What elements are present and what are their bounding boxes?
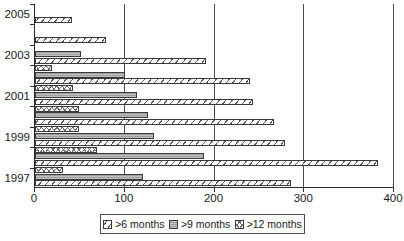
bar-2003-6months <box>35 58 206 64</box>
y-tick-2000 <box>30 106 34 107</box>
bar-1997-6months <box>35 180 291 186</box>
y-tick-1997 <box>30 168 34 169</box>
bar-1997-9months <box>35 174 143 180</box>
bar-2003-9months <box>35 51 81 57</box>
bar-1999-9months <box>35 133 154 139</box>
legend-label: >12 months <box>247 219 302 230</box>
legend-item-0: >6 months <box>103 219 164 230</box>
legend-item-1: >9 months <box>169 219 230 230</box>
bar-2000-12months <box>35 106 79 112</box>
y-tick-2004 <box>30 24 34 25</box>
bar-2004-6months <box>35 37 106 43</box>
y-axis-label-1999: 1999 <box>4 131 30 143</box>
y-tick-2001 <box>30 86 34 87</box>
bar-2002-9months <box>35 72 125 78</box>
hatch-swatch-icon <box>103 220 112 229</box>
x-axis-label-200: 200 <box>194 192 234 204</box>
y-axis-label-2003: 2003 <box>4 49 30 61</box>
y-axis-label-2005: 2005 <box>4 8 30 20</box>
legend-item-2: >12 months <box>235 219 302 230</box>
x-axis-label-300: 300 <box>283 192 323 204</box>
crosshatch-swatch-icon <box>235 220 244 229</box>
bar-2001-12months <box>35 85 73 91</box>
bar-2002-6months <box>35 78 250 84</box>
horizontal-bar-chart: 19971999200120032005 0100200300400 >6 mo… <box>0 0 404 241</box>
x-axis-label-400: 400 <box>373 192 404 204</box>
chart-legend: >6 months>9 months>12 months <box>100 214 305 234</box>
bar-1999-12months <box>35 126 79 132</box>
bar-2000-9months <box>35 112 148 118</box>
y-tick-2003 <box>30 45 34 46</box>
bar-1998-6months <box>35 160 378 166</box>
x-axis-label-0: 0 <box>14 192 54 204</box>
gridline-400 <box>393 4 394 188</box>
y-tick-1998 <box>30 147 34 148</box>
bar-2000-6months <box>35 119 274 125</box>
gray-swatch-icon <box>169 220 178 229</box>
bar-2005-6months <box>35 17 72 23</box>
y-tick-1999 <box>30 127 34 128</box>
bar-2001-9months <box>35 92 137 98</box>
y-axis-label-2001: 2001 <box>4 90 30 102</box>
bar-2001-6months <box>35 99 253 105</box>
y-tick-2002 <box>30 65 34 66</box>
bar-2002-12months <box>35 65 52 71</box>
plot-area <box>34 4 393 188</box>
bar-1999-6months <box>35 140 285 146</box>
bar-1998-12months <box>35 147 97 153</box>
legend-label: >9 months <box>181 219 230 230</box>
bar-1998-9months <box>35 153 204 159</box>
bar-1997-12months <box>35 167 63 173</box>
y-tick-2005 <box>30 4 34 5</box>
legend-label: >6 months <box>115 219 164 230</box>
x-axis-label-100: 100 <box>104 192 144 204</box>
y-axis-label-1997: 1997 <box>4 172 30 184</box>
